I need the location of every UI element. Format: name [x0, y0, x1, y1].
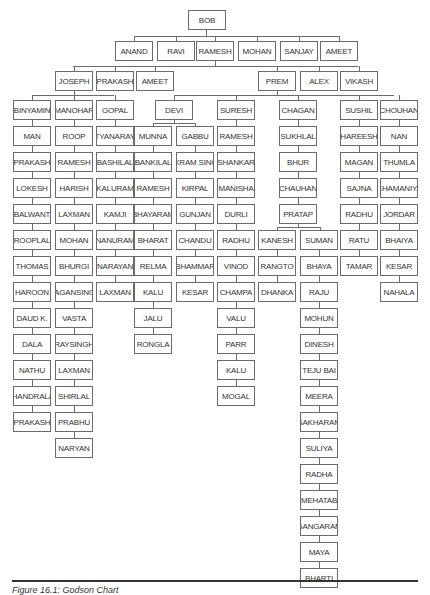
tree-node: BASHILAL — [96, 152, 134, 172]
tree-node: RAMESH — [55, 152, 93, 172]
tree-node: MOHAN — [55, 230, 93, 250]
tree-node: CHANDU — [176, 230, 214, 250]
connector-line — [134, 36, 339, 37]
tree-node: JOSEPH — [55, 71, 93, 91]
tree-node: RAJU — [300, 282, 338, 302]
tree-node: MOHUN — [300, 308, 338, 328]
connector-line — [32, 95, 114, 96]
connector-line — [277, 227, 320, 228]
tree-node: SHANKAR — [217, 152, 255, 172]
connector-line — [174, 95, 394, 96]
tree-node: CHAMANIYA — [380, 178, 418, 198]
tree-node: DAUD K. — [13, 308, 51, 328]
tree-node: KIRPAL — [176, 178, 214, 198]
tree-node: VIKRAM SINGH — [176, 152, 214, 172]
tree-node: RADHU — [340, 204, 378, 224]
tree-node: SULIYA — [300, 438, 338, 458]
tree-node: MAGANSINGH — [55, 282, 93, 302]
tree-node: SUMAN — [300, 230, 338, 250]
tree-node: RADHA — [300, 464, 338, 484]
tree-node: KALURAM — [96, 178, 134, 198]
tree-node: SURESH — [217, 100, 255, 120]
tree-node: NAN — [380, 126, 418, 146]
tree-node: SANJAY — [280, 41, 318, 61]
tree-node: THOMAS — [13, 256, 51, 276]
tree-node: MUNNA — [134, 126, 172, 146]
tree-node: BANKILAL — [134, 152, 172, 172]
tree-node: TAMAR — [340, 256, 378, 276]
tree-node: THUMLA — [380, 152, 418, 172]
tree-node: KESAR — [380, 256, 418, 276]
tree-node: KESAR — [176, 282, 214, 302]
tree-node: ANAND — [115, 41, 153, 61]
tree-node: BHURGI — [55, 256, 93, 276]
tree-node: ROOP — [55, 126, 93, 146]
tree-node: BHAYA — [300, 256, 338, 276]
tree-node: RAMESH — [217, 126, 255, 146]
caption-rule — [12, 580, 418, 582]
tree-node: GANGARAM — [300, 516, 338, 536]
tree-node: LOKESH — [13, 178, 51, 198]
tree-node: KANESH — [258, 230, 296, 250]
tree-node: BHAMMAR — [176, 256, 214, 276]
tree-node: BHAIYA — [380, 230, 418, 250]
tree-node: RANGTO — [258, 256, 296, 276]
tree-node: NAHALA — [380, 282, 418, 302]
tree-node: CHANDRALAL — [13, 386, 51, 406]
tree-node: KAMJI — [96, 204, 134, 224]
tree-node: RAVI — [157, 41, 195, 61]
tree-node: BOB — [188, 10, 226, 30]
tree-node: HAREESH — [340, 126, 378, 146]
tree-node: MAGAN — [340, 152, 378, 172]
tree-node: HAROON — [13, 282, 51, 302]
tree-node: HARISH — [55, 178, 93, 198]
tree-node: DALA — [13, 334, 51, 354]
tree-node: MOGAL — [217, 386, 255, 406]
tree-node: DHANKA — [258, 282, 296, 302]
tree-node: SUKHLAL — [279, 126, 317, 146]
tree-node: JALU — [134, 308, 172, 328]
tree-node: PRAKASH — [13, 412, 51, 432]
tree-node: BHARAT — [134, 230, 172, 250]
tree-node: DEVI — [155, 100, 193, 120]
tree-node: AMEET — [136, 71, 174, 91]
tree-node: MAN — [13, 126, 51, 146]
tree-node: KALU — [217, 360, 255, 380]
tree-node: CHAUHAN — [279, 178, 317, 198]
tree-node: KALU — [134, 282, 172, 302]
tree-node: BHARTI — [300, 568, 338, 588]
tree-node: DINESH — [300, 334, 338, 354]
tree-node: SAJNA — [340, 178, 378, 198]
tree-node: LAXMAN — [96, 282, 134, 302]
tree-node: RELMA — [134, 256, 172, 276]
tree-node: BALWANT — [13, 204, 51, 224]
tree-node: PRATAP — [279, 204, 317, 224]
tree-node: NARYAN — [55, 438, 93, 458]
tree-node: PARR — [217, 334, 255, 354]
tree-node: VASTA — [55, 308, 93, 328]
tree-node: RAMESH — [196, 41, 234, 61]
tree-node: VINOD — [217, 256, 255, 276]
tree-node: MANOHAR — [55, 100, 93, 120]
tree-node: GOPAL — [96, 100, 134, 120]
tree-node: ROOPLAL — [13, 230, 51, 250]
tree-node: RAYSINGH — [55, 334, 93, 354]
tree-node: ALEX — [300, 71, 338, 91]
tree-node: CHOUHAN — [380, 100, 418, 120]
tree-node: AMEET — [320, 41, 358, 61]
tree-node: BINYAMIN — [13, 100, 51, 120]
tree-node: SATYANARAYAN — [96, 126, 134, 146]
tree-node: SUSHIL — [340, 100, 378, 120]
tree-node: PRAKASH — [96, 71, 134, 91]
tree-node: RONGLA — [134, 334, 172, 354]
tree-node: VALU — [217, 308, 255, 328]
tree-node: LAXMAN — [55, 360, 93, 380]
tree-node: MANISHA — [217, 178, 255, 198]
tree-node: CHAGAN — [279, 100, 317, 120]
tree-node: DURLI — [217, 204, 255, 224]
tree-node: BHAYARAM — [134, 204, 172, 224]
tree-node: NARAYAN — [96, 256, 134, 276]
tree-node: GUNJAN — [176, 204, 214, 224]
tree-node: JORDAR — [380, 204, 418, 224]
